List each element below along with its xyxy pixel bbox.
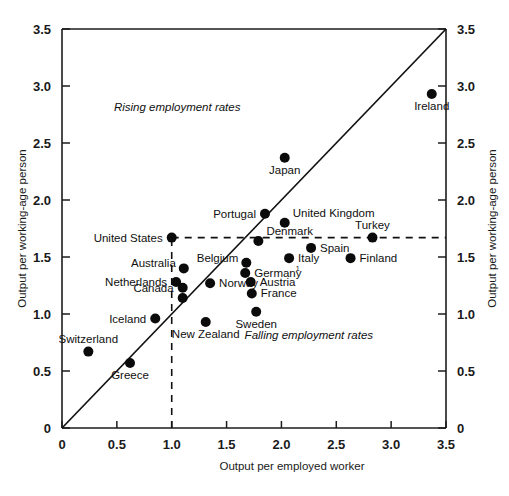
y-tick-label: 2.5 [33,136,51,151]
data-point [125,358,135,368]
data-point [150,314,160,324]
data-point [241,258,251,268]
data-point [280,153,290,163]
y-tick-label: 3.5 [33,22,51,37]
x-axis-title: Output per employed worker [219,460,364,472]
data-point-label: Japan [269,164,300,176]
x-tick-label: 0.5 [108,437,126,452]
scatter-chart: 000.50.51.01.01.51.52.02.02.52.53.03.03.… [0,0,509,496]
data-point-label: Ireland [414,100,449,112]
data-point [201,317,211,327]
data-point [260,209,270,219]
data-point-label: Finland [360,252,398,264]
y-tick-label: 3.0 [33,79,51,94]
data-point-label: Denmark [266,225,313,237]
data-point-label: Norway [219,277,258,289]
data-point-label: New Zealand [172,328,240,340]
y-tick-label: 1.0 [33,307,51,322]
y-tick-label-right: 0.5 [457,364,475,379]
x-tick-label: 2.5 [327,437,345,452]
data-point [247,288,257,298]
y-axis-title-right: Output per working-age person [486,149,498,308]
data-point [251,307,261,317]
y-tick-label-right: 2.5 [457,136,475,151]
data-point-label: Spain [320,242,349,254]
x-tick-label: 3.0 [382,437,400,452]
data-point [284,253,294,263]
data-point-label: Canada [133,282,174,294]
x-tick-label: 2.0 [272,437,290,452]
y-axis-title: Output per working-age person [16,149,28,308]
data-point [178,293,188,303]
data-point-label: Australia [131,257,176,269]
y-tick-label-right: 3.5 [457,22,475,37]
data-point [253,236,263,246]
region-annotation: Falling employment rates [245,329,374,341]
y-tick-label-right: 3.0 [457,79,475,94]
y-tick-label-right: 2.0 [457,193,475,208]
data-point-label: Iceland [109,313,146,325]
data-point-label: Austria [260,276,296,288]
y-tick-label: 2.0 [33,193,51,208]
x-tick-label: 1.5 [218,437,236,452]
data-point-label: Turkey [355,219,390,231]
region-annotation: Rising employment rates [114,101,241,113]
y-tick-label: 1.5 [33,250,51,265]
data-point [167,233,177,243]
data-point-label: Belgium [197,252,239,264]
y-tick-label-right: 0 [457,421,464,436]
x-tick-label: 0 [58,437,65,452]
x-tick-label: 3.5 [437,437,455,452]
data-point-label: Switzerland [59,333,118,345]
x-tick-label: 1.0 [163,437,181,452]
data-point-label: Greece [111,369,149,381]
chart-canvas: 000.50.51.01.01.51.52.02.02.52.53.03.03.… [0,0,509,496]
data-point [178,283,188,293]
data-point [367,233,377,243]
data-point [179,263,189,273]
y-tick-label: 0 [44,421,51,436]
chart-background [0,0,509,496]
data-point [427,89,437,99]
data-point-label: United States [94,232,163,244]
data-point [205,278,215,288]
data-point-label: France [261,287,297,299]
footnote-marker: 1 [296,265,300,272]
y-tick-label-right: 1.0 [457,307,475,322]
data-point-label: Italy [298,252,319,264]
data-point-label: Portugal [213,208,256,220]
data-point [346,253,356,263]
data-point-label: United Kingdom [293,207,375,219]
y-tick-label-right: 1.5 [457,250,475,265]
data-point [83,347,93,357]
data-point-label: Sweden [235,318,277,330]
y-tick-label: 0.5 [33,364,51,379]
